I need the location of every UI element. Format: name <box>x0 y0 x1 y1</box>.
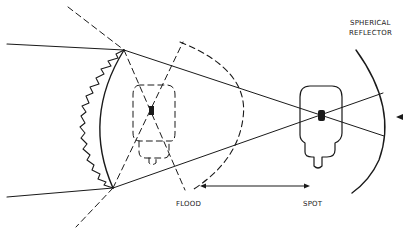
flood-filament <box>149 106 154 115</box>
pointer-triangle-icon <box>396 114 403 120</box>
label-spot: SPOT <box>303 200 323 208</box>
fresnel-lens <box>80 50 124 188</box>
label-flood: FLOOD <box>176 200 201 208</box>
travel-arrow <box>200 184 310 189</box>
label-reflector: REFLECTOR <box>349 29 392 37</box>
lamp-spot-position <box>300 86 342 168</box>
label-spherical: SPHERICAL <box>350 19 391 27</box>
flood-reflector-arc <box>180 42 244 189</box>
spherical-reflector <box>352 50 385 193</box>
spot-flood-diagram: SPHERICAL REFLECTOR FLOOD SPOT <box>0 0 406 237</box>
arrowhead-left-icon <box>200 184 206 189</box>
spot-filament <box>318 110 325 121</box>
arrowhead-right-icon <box>304 184 310 189</box>
flood-rays <box>68 7 185 227</box>
